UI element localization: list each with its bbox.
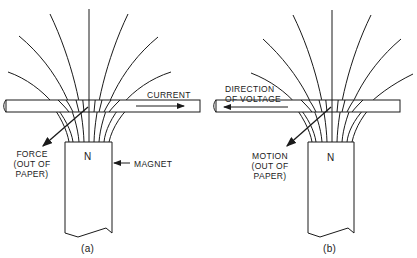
- voltage-label-line-1: DIRECTION: [225, 84, 281, 94]
- diagram-canvas: [0, 0, 417, 258]
- caption-a: (a): [81, 244, 94, 254]
- panel-a: [4, 9, 200, 237]
- motion-label-line-2: (OUT OF: [249, 161, 291, 171]
- voltage-direction-label: DIRECTION OF VOLTAGE: [225, 84, 281, 104]
- magnetic-field-lines: [8, 9, 171, 142]
- force-label-line-2: (OUT OF: [10, 159, 54, 169]
- north-pole-label-a: N: [84, 152, 92, 162]
- north-pole-label-b: N: [327, 153, 335, 163]
- current-label: CURRENT: [147, 90, 191, 100]
- caption-b: (b): [323, 244, 336, 254]
- force-arrow: [43, 107, 88, 146]
- motion-label-line-3: PAPER): [249, 171, 291, 181]
- magnet-label: MAGNET: [134, 159, 172, 169]
- magnetic-field-lines: [251, 10, 413, 142]
- force-label: FORCE (OUT OF PAPER): [10, 149, 54, 179]
- force-label-line-3: PAPER): [10, 169, 54, 179]
- motion-label-line-1: MOTION: [249, 151, 291, 161]
- panel-b: [214, 10, 413, 237]
- voltage-label-line-2: OF VOLTAGE: [225, 94, 281, 104]
- motion-label: MOTION (OUT OF PAPER): [249, 151, 291, 181]
- motion-arrow: [287, 107, 331, 146]
- force-label-line-1: FORCE: [10, 149, 54, 159]
